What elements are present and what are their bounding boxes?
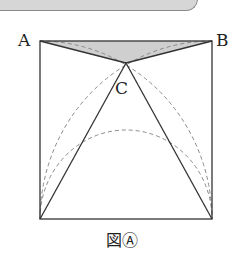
shaded-region — [40, 41, 212, 63]
label-c: C — [115, 78, 128, 98]
dashed-arcs — [40, 41, 212, 219]
geometry-figure: A B C 図Ⓐ — [0, 0, 245, 265]
label-b: B — [216, 30, 229, 50]
label-a: A — [17, 30, 31, 50]
triangle-lines — [40, 41, 212, 219]
figure-caption: 図Ⓐ — [106, 231, 138, 250]
square-outline — [40, 41, 212, 219]
